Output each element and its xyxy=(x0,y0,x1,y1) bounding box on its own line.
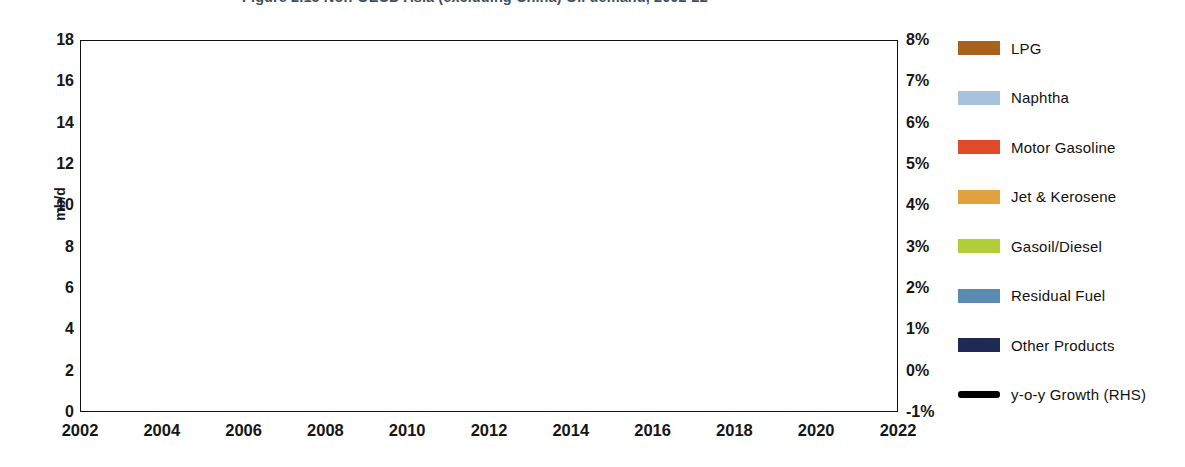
legend-color-swatch xyxy=(958,190,1000,204)
legend-color-swatch xyxy=(958,239,1000,253)
legend-color-swatch xyxy=(958,91,1000,105)
legend-color-swatch xyxy=(958,140,1000,154)
legend-item[interactable]: Other Products xyxy=(958,333,1185,357)
right-axis-tick: 3% xyxy=(906,238,954,256)
x-axis-tick: 2004 xyxy=(143,421,180,440)
chart-root: Figure 2.15 Non-OECD Asia (excluding Chi… xyxy=(0,0,1185,467)
left-axis-tick: 18 xyxy=(40,31,74,49)
right-axis-tick: 2% xyxy=(906,279,954,297)
right-axis-tick: 1% xyxy=(906,320,954,338)
legend-item[interactable]: Jet & Kerosene xyxy=(958,185,1185,209)
x-axis-tick: 2016 xyxy=(634,421,671,440)
legend-item-label: Naphtha xyxy=(1011,89,1069,106)
legend-item[interactable]: LPG xyxy=(958,36,1185,60)
right-axis: 8% 7% 6% 5% 4% 3% 2% 1% 0% -1% xyxy=(906,0,954,467)
legend-item[interactable]: Gasoil/Diesel xyxy=(958,234,1185,258)
legend-item[interactable]: y-o-y Growth (RHS) xyxy=(958,383,1185,407)
left-axis-tick: 12 xyxy=(40,155,74,173)
x-axis-tick: 2020 xyxy=(798,421,835,440)
x-axis-tick: 2010 xyxy=(389,421,426,440)
left-axis: mb/d 18 16 14 12 10 8 6 4 2 0 xyxy=(34,0,74,467)
right-axis-tick: 5% xyxy=(906,155,954,173)
x-axis-tick: 2014 xyxy=(552,421,589,440)
legend-color-swatch xyxy=(958,41,1000,55)
x-axis-tick: 2002 xyxy=(62,421,99,440)
left-axis-tick: 8 xyxy=(40,238,74,256)
legend-item-label: y-o-y Growth (RHS) xyxy=(1011,386,1146,403)
left-axis-tick: 6 xyxy=(40,279,74,297)
legend-item[interactable]: Naphtha xyxy=(958,86,1185,110)
x-axis-tick: 2006 xyxy=(225,421,262,440)
right-axis-tick: 0% xyxy=(906,362,954,380)
x-axis-tick: 2022 xyxy=(880,421,917,440)
x-axis-tick: 2012 xyxy=(471,421,508,440)
x-axis-tick: 2008 xyxy=(307,421,344,440)
left-axis-tick: 14 xyxy=(40,114,74,132)
left-axis-tick: 10 xyxy=(40,196,74,214)
page-title: Figure 2.15 Non-OECD Asia (excluding Chi… xyxy=(0,0,950,5)
right-axis-tick: 4% xyxy=(906,196,954,214)
legend-line-swatch xyxy=(958,391,1000,398)
legend-item-label: Jet & Kerosene xyxy=(1011,188,1116,205)
right-axis-tick: 8% xyxy=(906,31,954,49)
legend-item-label: Other Products xyxy=(1011,337,1115,354)
legend-item[interactable]: Motor Gasoline xyxy=(958,135,1185,159)
right-axis-tick: 7% xyxy=(906,72,954,90)
legend-item-label: Residual Fuel xyxy=(1011,287,1105,304)
right-axis-tick: 6% xyxy=(906,114,954,132)
left-axis-tick: 16 xyxy=(40,72,74,90)
legend-item-label: Motor Gasoline xyxy=(1011,139,1116,156)
plot-frame xyxy=(80,40,898,412)
right-axis-tick: -1% xyxy=(906,403,954,421)
legend-color-swatch xyxy=(958,289,1000,303)
legend-item-label: Gasoil/Diesel xyxy=(1011,238,1102,255)
left-axis-tick: 2 xyxy=(40,362,74,380)
left-axis-tick: 4 xyxy=(40,320,74,338)
legend: LPGNaphthaMotor GasolineJet & KeroseneGa… xyxy=(958,36,1185,432)
left-axis-tick: 0 xyxy=(40,403,74,421)
legend-item[interactable]: Residual Fuel xyxy=(958,284,1185,308)
x-axis-tick: 2018 xyxy=(716,421,753,440)
legend-item-label: LPG xyxy=(1011,40,1042,57)
legend-color-swatch xyxy=(958,338,1000,352)
